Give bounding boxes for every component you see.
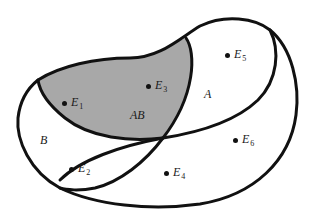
sample-point-e5: E5: [225, 48, 246, 63]
region-label-b: B: [40, 134, 47, 146]
point-label: E6: [242, 133, 254, 148]
point-marker-icon: [146, 84, 151, 89]
point-marker-icon: [233, 138, 238, 143]
sample-point-e1: E1: [62, 96, 83, 111]
sample-point-e6: E6: [233, 133, 254, 148]
sample-point-e4: E4: [164, 166, 185, 181]
point-marker-icon: [164, 171, 169, 176]
point-label: E2: [78, 162, 90, 177]
region-label-a: A: [204, 88, 211, 100]
point-label: E5: [234, 48, 246, 63]
point-marker-icon: [69, 167, 74, 172]
point-label: E4: [173, 166, 185, 181]
venn-diagram-canvas: [0, 0, 310, 219]
sample-point-e3: E3: [146, 79, 167, 94]
region-ab-shaded: [38, 38, 192, 139]
region-label-ab: AB: [130, 109, 145, 121]
point-marker-icon: [225, 53, 230, 58]
point-label: E3: [155, 79, 167, 94]
point-marker-icon: [62, 101, 67, 106]
sample-point-e2: E2: [69, 162, 90, 177]
point-label: E1: [71, 96, 83, 111]
